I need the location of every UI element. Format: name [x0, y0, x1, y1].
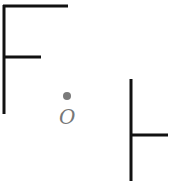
- center-point-dot: [63, 92, 71, 100]
- diagram-canvas: O: [0, 0, 188, 181]
- rotated-f-shape: [131, 79, 168, 181]
- center-point-label: O: [59, 105, 75, 129]
- original-f-shape: [3, 5, 68, 114]
